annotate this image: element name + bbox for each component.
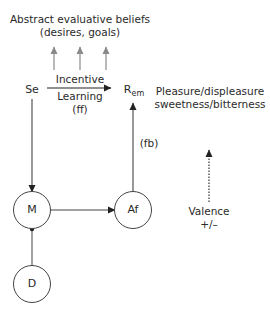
node-d-label: D [20, 277, 44, 290]
diagram-canvas [0, 0, 270, 317]
node-af-label: Af [121, 203, 145, 216]
abstract-beliefs-line1: Abstract evaluative beliefs [0, 13, 160, 26]
incentive-line1: Incentive [50, 73, 110, 86]
pleasure-line2: sweetness/bitterness [154, 98, 266, 111]
incentive-learning-label: Incentive Learning (ff) [50, 74, 110, 113]
node-se-label: Se [20, 83, 44, 96]
node-rem-label: Rem [119, 83, 149, 100]
node-m-label: M [20, 203, 44, 216]
valence-sign: +/– [179, 218, 239, 231]
pleasure-line1: Pleasure/displeasure [154, 85, 266, 98]
feedback-label: (fb) [137, 137, 161, 150]
abstract-beliefs-label: Abstract evaluative beliefs (desires, go… [0, 13, 160, 39]
abstract-beliefs-line2: (desires, goals) [0, 26, 160, 39]
node-rem-subscript: em [131, 89, 144, 98]
incentive-line3: (ff) [50, 103, 110, 116]
incentive-line2: Learning [50, 90, 110, 103]
pleasure-label: Pleasure/displeasure sweetness/bitternes… [154, 85, 266, 111]
valence-text: Valence [179, 205, 239, 218]
valence-label: Valence +/– [179, 205, 239, 231]
